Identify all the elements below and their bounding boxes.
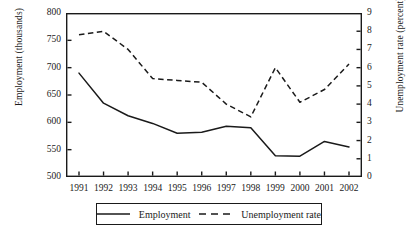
right-tick-label: 0 (367, 172, 372, 182)
left-tick-label: 600 (47, 118, 61, 128)
employment-legend-label: Employment (139, 209, 191, 220)
x-tick-label: 1995 (168, 184, 187, 194)
right-tick-label: 1 (367, 154, 372, 164)
chart-legend: Employment Unemployment rate (96, 203, 322, 225)
right-axis-title: Unemployment rate (percent) (395, 0, 405, 135)
x-tick-label: 1998 (241, 184, 260, 194)
right-tick-label: 7 (367, 45, 372, 55)
right-tick-label: 9 (367, 8, 372, 18)
chart-canvas (66, 13, 362, 177)
unemployment-legend-swatch (199, 211, 232, 217)
x-tick-label: 1994 (143, 184, 162, 194)
x-tick-label: 2002 (340, 184, 359, 194)
left-tick-label: 750 (47, 36, 61, 46)
left-axis-title: Employment (thousands) (14, 0, 24, 137)
left-tick-label: 800 (47, 8, 61, 18)
right-tick-label: 8 (367, 26, 372, 36)
chart-figure: Employment (thousands) Unemployment rate… (0, 0, 413, 236)
x-tick-label: 2000 (290, 184, 309, 194)
left-tick-label: 500 (47, 172, 61, 182)
x-tick-label: 1993 (119, 184, 138, 194)
x-tick-label: 1992 (94, 184, 113, 194)
x-tick-label: 1997 (217, 184, 236, 194)
employment-legend-swatch (97, 211, 130, 217)
left-tick-label: 550 (47, 145, 61, 155)
plot-frame (67, 14, 362, 177)
right-tick-label: 6 (367, 63, 372, 73)
x-tick-label: 1991 (70, 184, 89, 194)
x-tick-label: 1996 (192, 184, 211, 194)
right-tick-label: 5 (367, 81, 372, 91)
left-tick-label: 700 (47, 63, 61, 73)
left-tick-label: 650 (47, 90, 61, 100)
right-tick-label: 4 (367, 99, 372, 109)
plot-area: 800750700650600550500 9876543210 1991199… (66, 13, 362, 177)
unemployment-legend-label: Unemployment rate (241, 209, 321, 220)
x-tick-label: 1999 (266, 184, 285, 194)
x-tick-label: 2001 (315, 184, 334, 194)
right-tick-label: 2 (367, 136, 372, 146)
right-tick-label: 3 (367, 118, 372, 128)
